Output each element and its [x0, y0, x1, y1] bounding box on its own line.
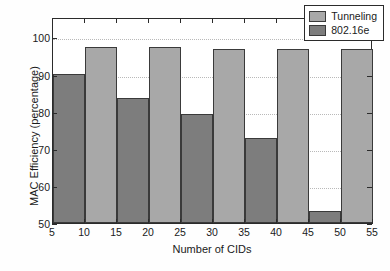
- y-axis-tick: [367, 113, 372, 114]
- bar-80216e-20: [117, 98, 149, 223]
- y-axis-tick: [52, 113, 57, 114]
- x-axis-tick-label: 45: [293, 226, 323, 238]
- x-axis-tick-label: 35: [229, 226, 259, 238]
- y-axis-tick: [367, 224, 372, 225]
- figure-canvas: 5060708090100 510152025303540455055 MAC …: [0, 0, 390, 271]
- x-axis-tick: [308, 219, 309, 224]
- x-axis-tick: [276, 18, 277, 23]
- x-axis-tick: [180, 18, 181, 23]
- x-axis-tick: [84, 219, 85, 224]
- bar-80216e-50: [309, 211, 341, 223]
- bar-80216e-10: [53, 74, 85, 223]
- y-axis-tick: [52, 224, 57, 225]
- x-axis-tick: [372, 219, 373, 224]
- x-axis-tick-label: 10: [69, 226, 99, 238]
- legend: Tunneling 802.16e: [304, 5, 384, 41]
- x-axis-tick: [244, 18, 245, 23]
- plot-area: [52, 18, 372, 224]
- y-axis-tick: [52, 187, 57, 188]
- x-axis-tick-label: 25: [165, 226, 195, 238]
- legend-item: Tunneling: [309, 9, 377, 23]
- y-axis-tick: [367, 76, 372, 77]
- x-axis-tick: [212, 18, 213, 23]
- x-axis-tick-label: 15: [101, 226, 131, 238]
- x-axis-tick-label: 50: [325, 226, 355, 238]
- y-axis-title: MAC Efficiency (percentage): [28, 36, 40, 236]
- y-axis-tick: [52, 76, 57, 77]
- y-axis-tick: [52, 150, 57, 151]
- x-axis-tick-label: 30: [197, 226, 227, 238]
- y-axis-tick: [367, 187, 372, 188]
- x-axis-tick: [340, 219, 341, 224]
- x-axis-tick: [276, 219, 277, 224]
- legend-swatch-80216e: [309, 25, 326, 36]
- bar-80216e-40: [245, 138, 277, 223]
- x-axis-tick: [84, 18, 85, 23]
- bar-tunneling-30: [213, 49, 245, 223]
- x-axis-tick: [244, 219, 245, 224]
- x-axis-tick-label: 40: [261, 226, 291, 238]
- legend-label-tunneling: Tunneling: [331, 10, 377, 22]
- y-axis-tick: [367, 150, 372, 151]
- x-axis-tick: [148, 219, 149, 224]
- x-axis-tick: [52, 18, 53, 23]
- x-axis-tick: [180, 219, 181, 224]
- y-axis-tick: [52, 38, 57, 39]
- x-axis-tick: [148, 18, 149, 23]
- legend-item: 802.16e: [309, 23, 377, 37]
- legend-label-80216e: 802.16e: [331, 24, 369, 36]
- bar-tunneling-20: [149, 47, 181, 223]
- x-axis-tick: [116, 219, 117, 224]
- x-axis-tick: [212, 219, 213, 224]
- x-axis-tick-label: 20: [133, 226, 163, 238]
- x-axis-tick: [52, 219, 53, 224]
- x-axis-tick-label: 5: [37, 226, 67, 238]
- bar-80216e-30: [181, 114, 213, 223]
- x-axis-tick: [116, 18, 117, 23]
- x-axis-title: Number of CIDs: [52, 243, 372, 255]
- bar-tunneling-40: [277, 49, 309, 223]
- x-axis-tick-label: 55: [357, 226, 387, 238]
- bar-tunneling-10: [85, 47, 117, 223]
- legend-swatch-tunneling: [309, 11, 326, 22]
- bar-layer: [53, 19, 371, 223]
